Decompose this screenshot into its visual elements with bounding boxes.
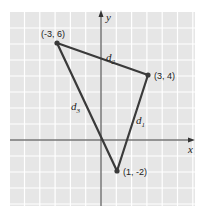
coordinate-plane-diagram: y x (-3, 6) (3, 4) (1, -2) d2 d1 d3: [0, 0, 204, 214]
point-c: [114, 168, 119, 173]
point-a: [54, 40, 59, 45]
y-axis-label: y: [105, 11, 111, 23]
point-b: [145, 72, 150, 77]
point-a-label: (-3, 6): [41, 29, 65, 39]
point-c-label: (1, -2): [123, 167, 147, 177]
grid-background: [10, 12, 195, 206]
x-axis-label: x: [187, 143, 193, 155]
point-b-label: (3, 4): [154, 71, 175, 81]
